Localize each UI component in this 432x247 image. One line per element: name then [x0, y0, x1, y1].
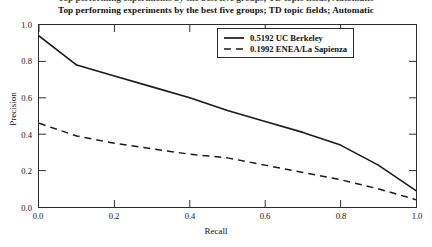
x-axis-title: Recall	[0, 226, 432, 236]
y-tick-label: 1.0	[2, 20, 32, 30]
y-axis-title: Precision	[8, 74, 18, 144]
precision-recall-figure: Top performing experiments by the best f…	[0, 0, 432, 247]
x-tick-label: 0.6	[248, 211, 282, 221]
legend-item-dashed: 0.1992 ENEA/La Sapienza	[223, 43, 347, 54]
x-tick-label: 0.0	[21, 211, 55, 221]
series-line-solid	[39, 36, 416, 191]
legend-label: 0.1992 ENEA/La Sapienza	[250, 44, 347, 54]
legend-label: 0.5192 UC Berkeley	[250, 33, 323, 43]
y-tick-label: 0.8	[2, 56, 32, 66]
y-tick-label: 0.2	[2, 166, 32, 176]
legend: 0.5192 UC Berkeley 0.1992 ENEA/La Sapien…	[217, 28, 354, 58]
x-tick-label: 1.0	[400, 211, 432, 221]
x-tick-label: 0.8	[324, 211, 358, 221]
series-line-dashed	[39, 123, 416, 199]
clipped-title-text: Top performing experiments by the best f…	[0, 0, 432, 3]
y-axis-ticks	[39, 61, 416, 170]
chart-title: Top performing experiments by the best f…	[0, 5, 432, 15]
legend-solid-line-icon	[223, 33, 245, 43]
x-tick-label: 0.2	[97, 211, 131, 221]
x-tick-label: 0.4	[173, 211, 207, 221]
legend-item-solid: 0.5192 UC Berkeley	[223, 32, 347, 43]
legend-dashed-line-icon	[223, 44, 245, 54]
